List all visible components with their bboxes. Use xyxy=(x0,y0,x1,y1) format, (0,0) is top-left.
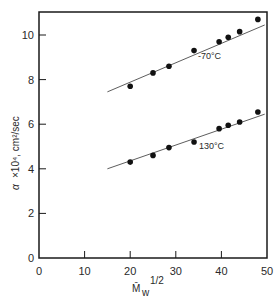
y-tick-label: 6 xyxy=(28,118,34,130)
x-tick-label: 40 xyxy=(215,265,227,277)
data-point xyxy=(191,139,197,145)
series-label-130: 130°C xyxy=(199,141,225,151)
axis-ticks: 010203040500246810 xyxy=(22,29,273,277)
fit-lines xyxy=(107,25,264,169)
data-point xyxy=(127,83,133,89)
series-label-minus70: -70°C xyxy=(198,51,222,61)
data-point xyxy=(255,17,261,23)
data-point xyxy=(166,63,172,69)
y-axis-label-rest: ×10⁴, cm²/sec xyxy=(10,116,21,178)
y-axis-label: α ×10⁴, cm²/sec xyxy=(10,116,21,190)
data-points xyxy=(127,17,260,165)
data-point xyxy=(216,39,222,45)
data-point xyxy=(225,123,231,129)
x-axis-label-sup: 1/2 xyxy=(150,275,164,286)
plot-frame xyxy=(39,12,267,258)
x-tick-label: 10 xyxy=(78,265,90,277)
data-point xyxy=(150,153,156,159)
chart: 010203040500246810 -70°C 130°C α ×10⁴, c… xyxy=(0,0,279,302)
y-tick-label: 10 xyxy=(22,29,34,41)
data-point xyxy=(166,145,172,151)
data-point xyxy=(127,159,133,165)
y-tick-label: 2 xyxy=(28,207,34,219)
data-point xyxy=(255,109,261,115)
data-point xyxy=(225,34,231,40)
x-tick-label: 0 xyxy=(36,265,42,277)
data-point xyxy=(150,70,156,76)
plot-border xyxy=(39,12,267,258)
x-tick-label: 50 xyxy=(261,265,273,277)
y-axis-label-alpha: α xyxy=(10,184,21,190)
data-point xyxy=(237,29,243,35)
x-axis-label-sub: w xyxy=(141,287,150,298)
x-tick-label: 20 xyxy=(124,265,136,277)
y-tick-label: 4 xyxy=(28,163,34,175)
fit-line xyxy=(107,25,264,92)
x-axis-label-main: M̄ xyxy=(132,282,140,294)
data-point xyxy=(216,126,222,132)
y-tick-label: 8 xyxy=(28,74,34,86)
x-tick-label: 30 xyxy=(170,265,182,277)
y-tick-label: 0 xyxy=(28,252,34,264)
data-point xyxy=(191,48,197,54)
x-axis-label: M̄ w 1/2 xyxy=(132,275,164,298)
data-point xyxy=(237,119,243,125)
